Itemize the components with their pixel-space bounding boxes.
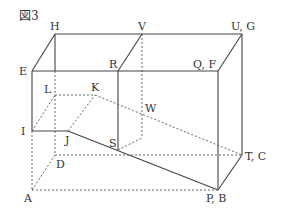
label-S: S [109, 137, 117, 150]
label-I: I [21, 125, 25, 138]
label-J: J [64, 134, 69, 147]
label-R: R [109, 58, 118, 71]
label-TC: T, C [245, 150, 266, 163]
edge-BC [218, 155, 242, 190]
edge-JP [68, 131, 218, 190]
label-E: E [19, 65, 27, 78]
label-D: D [56, 158, 65, 171]
label-A: A [23, 192, 33, 205]
edge-FG [218, 34, 242, 71]
label-UG: U, G [231, 20, 255, 33]
edge-JK [68, 95, 95, 131]
label-QF: Q, F [193, 58, 216, 71]
label-K: K [91, 81, 100, 94]
label-W: W [145, 102, 157, 115]
edge-RV [118, 34, 142, 71]
label-V: V [137, 20, 147, 33]
edge-IL [32, 95, 55, 131]
edge-SW [118, 138, 142, 150]
label-PB: P, B [206, 192, 226, 205]
label-H: H [50, 20, 60, 33]
vertex-labels: H V U, G E R Q, F L K W I J S D T, C A P… [19, 20, 266, 205]
label-L: L [44, 83, 52, 96]
edge-KT [95, 95, 242, 155]
edge-EH [32, 34, 55, 71]
geometry-diagram: H V U, G E R Q, F L K W I J S D T, C A P… [0, 0, 284, 214]
edge-AD [32, 155, 55, 190]
